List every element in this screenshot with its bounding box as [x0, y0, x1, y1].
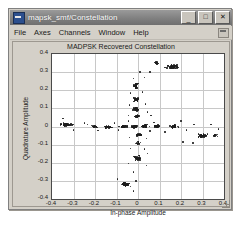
scatter-point: [135, 107, 137, 109]
scatter-point: [135, 180, 137, 182]
scatter-point: [201, 136, 203, 138]
scatter-point: [156, 62, 158, 64]
resize-grip[interactable]: [220, 198, 230, 208]
scatter-point: [146, 165, 148, 167]
menu-item-help[interactable]: Help: [129, 28, 152, 37]
scatter-point: [210, 124, 212, 126]
scatter-point: [70, 123, 72, 125]
scatter-point: [73, 129, 75, 131]
scatter-point: [129, 104, 131, 106]
scatter-point: [164, 131, 166, 133]
scatter-point: [144, 148, 146, 150]
scatter-point: [130, 148, 132, 150]
scatter-point: [139, 71, 141, 73]
x-tick-label: -0.4: [40, 200, 62, 206]
scatter-point: [166, 67, 168, 69]
scatter-point: [147, 111, 149, 113]
scatter-point: [128, 163, 130, 165]
scatter-point: [124, 125, 126, 127]
simulink-scope-icon: [13, 12, 25, 24]
scatter-point: [87, 124, 89, 126]
scatter-point: [138, 133, 140, 135]
maximize-icon: □: [199, 12, 212, 23]
dock-window-icon[interactable]: [218, 28, 229, 38]
y-tick-label: 0.1: [28, 103, 48, 109]
scatter-point: [62, 118, 64, 120]
title-bar[interactable]: mapsk_smf/Constellation _ □ ✕: [10, 10, 232, 25]
maximize-button[interactable]: □: [198, 11, 213, 24]
scatter-point: [142, 91, 144, 93]
scatter-point: [140, 134, 142, 136]
x-tick-label: 0.3: [191, 200, 213, 206]
menu-bar: File Axes Channels Window Help: [10, 26, 232, 40]
scatter-point: [174, 126, 176, 128]
menu-item-axes[interactable]: Axes: [30, 28, 55, 37]
scatter-point: [96, 127, 98, 129]
x-tick-label: 0: [126, 200, 148, 206]
scatter-point: [164, 67, 166, 69]
scatter-point: [153, 122, 155, 124]
menu-item-channels[interactable]: Channels: [55, 28, 95, 37]
x-axis-label: In-phase Amplitude: [51, 209, 225, 216]
scatter-point: [117, 178, 119, 180]
scatter-point: [176, 64, 178, 66]
scatter-point: [118, 129, 120, 131]
minimize-button[interactable]: _: [181, 11, 196, 24]
scatter-point: [150, 115, 152, 117]
scatter-point: [214, 135, 216, 137]
scatter-point: [111, 127, 113, 129]
x-tick-label: -0.2: [83, 200, 105, 206]
close-button[interactable]: ✕: [215, 11, 230, 24]
menu-item-window[interactable]: Window: [94, 28, 129, 37]
scatter-point: [207, 133, 209, 135]
minimize-icon: _: [182, 12, 195, 23]
scatter-point: [143, 125, 145, 127]
menu-item-file[interactable]: File: [10, 28, 30, 37]
scatter-point: [132, 109, 134, 111]
scope-window: mapsk_smf/Constellation _ □ ✕ File Axes …: [8, 8, 232, 210]
y-tick-label: 0: [28, 122, 48, 128]
y-tick-label: 0.3: [28, 67, 48, 73]
y-tick-label: -0.4: [28, 194, 48, 200]
scatter-point: [145, 103, 147, 105]
scatter-points: [52, 54, 224, 199]
y-tick-label: -0.3: [28, 176, 48, 182]
scatter-point: [97, 130, 99, 132]
scatter-point: [84, 122, 86, 124]
close-icon: ✕: [216, 12, 229, 23]
scatter-point: [133, 78, 135, 80]
scatter-point: [118, 126, 120, 128]
scatter-point: [149, 71, 151, 73]
scatter-point: [182, 141, 184, 143]
scatter-point: [218, 128, 220, 130]
window-title: mapsk_smf/Constellation: [28, 13, 181, 22]
x-tick-label: -0.1: [105, 200, 127, 206]
y-tick-label: -0.1: [28, 140, 48, 146]
scatter-point: [129, 137, 131, 139]
scatter-point: [114, 122, 116, 124]
scatter-point: [186, 129, 188, 131]
scatter-point: [135, 126, 137, 128]
scatter-point: [130, 92, 132, 94]
x-tick-label: -0.3: [62, 200, 84, 206]
scatter-point: [217, 136, 219, 138]
scatter-point: [193, 124, 195, 126]
scatter-point: [137, 142, 139, 144]
y-tick-label: 0.2: [28, 85, 48, 91]
scatter-point: [134, 100, 136, 102]
plot-area[interactable]: [51, 53, 225, 200]
figure-canvas: MADPSK Recovered Constellation Quadratur…: [12, 41, 230, 207]
scatter-point: [128, 120, 130, 122]
scatter-point: [126, 183, 128, 185]
scatter-point: [180, 120, 182, 122]
scatter-point: [149, 130, 151, 132]
y-tick-label: 0.4: [28, 49, 48, 55]
scatter-point: [133, 190, 135, 192]
scatter-point: [146, 138, 148, 140]
scatter-point: [133, 171, 135, 173]
y-tick-label: -0.2: [28, 158, 48, 164]
scatter-point: [128, 115, 130, 117]
scatter-point: [140, 157, 142, 159]
scatter-point: [144, 77, 146, 79]
scatter-point: [178, 126, 180, 128]
